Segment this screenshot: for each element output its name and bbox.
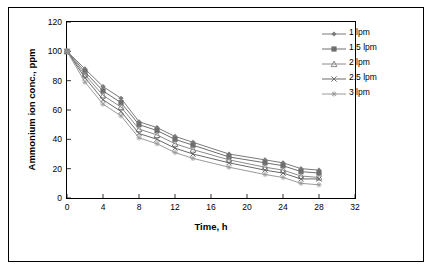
y-tick-label: 80	[36, 77, 62, 86]
y-tick-label: 60	[36, 106, 62, 115]
legend-item: 1.5 lpm	[321, 39, 388, 54]
y-tick-label: 120	[36, 18, 62, 27]
x-tick-label: 4	[92, 202, 114, 212]
x-axis-title: Time, h	[66, 221, 356, 232]
x-tick-label: 8	[128, 202, 150, 212]
chart-figure: 020406080100120 048121620242832 Time, h …	[0, 0, 432, 275]
legend-item: 3 lpm	[321, 84, 388, 99]
plot-area	[66, 21, 356, 199]
y-axis-title: Ammonium ion conc., ppm	[26, 15, 37, 205]
y-tick-label: 100	[36, 47, 62, 56]
y-axis-ticks: 020406080100120	[34, 21, 62, 199]
x-axis-ticks: 048121620242832	[66, 202, 356, 216]
y-tick-label: 20	[36, 165, 62, 174]
chart-legend: 1 lpm1.5 lpm2 lpm2.5 lpm3 lpm	[318, 22, 390, 101]
legend-marker-diamond-icon	[321, 26, 347, 38]
y-tick-label: 40	[36, 135, 62, 144]
legend-item: 1 lpm	[321, 24, 388, 39]
x-tick-label: 20	[236, 202, 258, 212]
legend-item: 2 lpm	[321, 54, 388, 69]
x-tick-label: 28	[308, 202, 330, 212]
legend-marker-triangle-icon	[321, 56, 347, 68]
series-canvas	[67, 22, 355, 198]
legend-label: 3 lpm	[347, 87, 370, 97]
legend-item: 2.5 lpm	[321, 69, 388, 84]
legend-label: 1.5 lpm	[347, 42, 377, 52]
legend-label: 2.5 lpm	[347, 72, 377, 82]
legend-marker-square-icon	[321, 41, 347, 53]
x-tick-label: 24	[272, 202, 294, 212]
legend-marker-cross-icon	[321, 71, 347, 83]
x-tick-label: 32	[344, 202, 366, 212]
legend-label: 1 lpm	[347, 27, 370, 37]
legend-label: 2 lpm	[347, 57, 370, 67]
x-tick-label: 16	[200, 202, 222, 212]
plot-inner	[67, 22, 355, 198]
legend-marker-asterisk-icon	[321, 86, 347, 98]
x-tick-label: 12	[164, 202, 186, 212]
x-tick-label: 0	[56, 202, 78, 212]
